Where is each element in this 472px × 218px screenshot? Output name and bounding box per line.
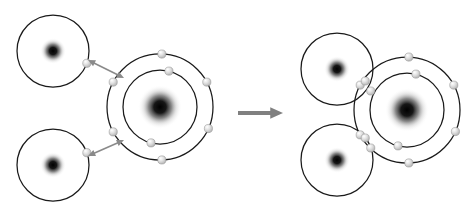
reaction-arrow-group (238, 107, 283, 118)
bonding-diagram-canvas (0, 0, 472, 218)
nucleus-oxygen-product (385, 88, 429, 132)
electron-oxygen-reactant-s1-0 (158, 50, 166, 58)
electron-oxygen-reactant-s1-3 (158, 156, 166, 164)
electron-oxygen-product-s1-1 (450, 81, 458, 89)
electron-oxygen-reactant-s0-1 (147, 139, 155, 147)
nucleus-hydrogen-bottom-left (40, 152, 66, 178)
shared-electron-pair-top-electron-0 (361, 77, 369, 85)
electron-oxygen-reactant-s1-5 (109, 78, 117, 86)
reaction-arrow-head (270, 107, 283, 118)
products-group (301, 33, 460, 196)
atom-hydrogen-top-right-bonded (301, 33, 373, 105)
electron-oxygen-reactant-s1-1 (203, 78, 211, 86)
electron-oxygen-reactant-s0-0 (165, 67, 173, 75)
nucleus-hydrogen-top-right-bonded (324, 56, 350, 82)
electron-oxygen-product-s1-3 (405, 159, 413, 167)
attraction-arrow-top-shaft (93, 63, 118, 76)
shared-electron-pair-top-electron-1 (367, 87, 375, 95)
atom-oxygen-reactant (107, 50, 213, 164)
electron-oxygen-product-s0-0 (412, 70, 420, 78)
electron-oxygen-product-s1-0 (405, 53, 413, 61)
shared-electron-pair-bottom-electron-0 (361, 134, 369, 142)
attraction-arrow-top (88, 60, 124, 78)
electron-oxygen-product-s1-2 (451, 127, 459, 135)
nucleus-hydrogen-top-left (40, 38, 66, 64)
atom-hydrogen-bottom-left (17, 129, 91, 201)
nucleus-hydrogen-bottom-right-bonded (324, 147, 350, 173)
shared-electron-pair-bottom (361, 134, 375, 152)
shared-electron-pair-bottom-electron-1 (367, 144, 375, 152)
nucleus-oxygen-reactant (138, 85, 182, 129)
reactants-group (17, 15, 213, 201)
attraction-arrow-bottom (88, 140, 124, 156)
water-formation-diagram (0, 0, 472, 218)
electron-oxygen-reactant-s1-2 (204, 124, 212, 132)
electron-oxygen-reactant-s1-4 (109, 128, 117, 136)
atom-hydrogen-top-left (17, 15, 91, 87)
electron-oxygen-product-s0-1 (394, 142, 402, 150)
attraction-arrow-bottom-shaft (93, 142, 118, 153)
